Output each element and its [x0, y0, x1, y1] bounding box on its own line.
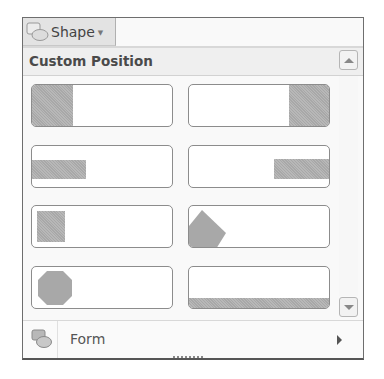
form-menu-item[interactable]: Form: [23, 321, 363, 358]
left-bar-shape: [32, 160, 86, 179]
right-bar-shape: [274, 159, 329, 179]
scroll-down-button[interactable]: [339, 297, 358, 317]
left-diamond-shape: [189, 206, 249, 248]
gallery-scrollbar[interactable]: [339, 76, 358, 296]
gallery-item-right-block[interactable]: [188, 84, 330, 127]
caret-down-icon: ▼: [98, 29, 103, 37]
form-label: Form: [70, 331, 105, 347]
shape-label: Shape: [51, 24, 95, 40]
gallery-item-left-diamond[interactable]: [188, 205, 330, 248]
form-icon-column: [23, 321, 58, 358]
shape-dropdown-button[interactable]: Shape ▼: [23, 18, 116, 46]
gallery-item-left-circle[interactable]: [31, 266, 173, 309]
triangle-down-icon: [344, 305, 354, 310]
left-block-shape: [32, 85, 73, 126]
right-block-shape: [289, 85, 329, 126]
left-circle-shape: [36, 270, 74, 306]
shape-gallery-panel: Shape ▼ Custom Position: [22, 17, 364, 360]
gallery-item-right-bar[interactable]: [188, 145, 330, 188]
shapes-icon: [26, 22, 50, 42]
section-title: Custom Position: [23, 48, 363, 76]
left-square-shape: [37, 211, 65, 242]
chevron-right-icon: [337, 335, 342, 345]
gallery-item-left-block[interactable]: [31, 84, 173, 127]
bottom-band-shape: [189, 298, 329, 308]
gallery-item-bottom-band[interactable]: [188, 266, 330, 309]
scroll-up-button[interactable]: [339, 50, 358, 70]
form-shapes-icon: [31, 329, 53, 349]
gallery-item-left-square[interactable]: [31, 205, 173, 248]
resize-grip[interactable]: [173, 356, 203, 358]
triangle-up-icon: [344, 58, 354, 63]
gallery-item-left-bar[interactable]: [31, 145, 173, 188]
